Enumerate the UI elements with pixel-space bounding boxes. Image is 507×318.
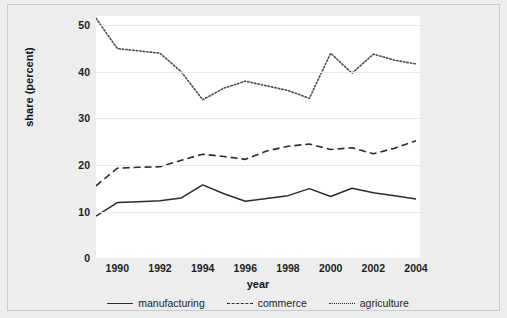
x-tick-1990: 1990 [106, 262, 129, 274]
gridline-y-50 [96, 25, 420, 26]
legend-item-agriculture[interactable]: agriculture [329, 297, 409, 309]
y-tick-40: 40 [78, 66, 90, 78]
gridline-y-30 [96, 118, 420, 119]
x-axis-title: year [96, 278, 420, 290]
gridline-y-10 [96, 212, 420, 213]
legend-label-commerce: commerce [258, 297, 307, 309]
y-tick-10: 10 [78, 206, 90, 218]
x-tick-1992: 1992 [148, 262, 171, 274]
gridline-y-40 [96, 72, 420, 73]
y-tick-0: 0 [84, 252, 90, 264]
y-axis-tick-labels: 01020304050 [62, 16, 90, 258]
y-tick-30: 30 [78, 112, 90, 124]
y-axis-title: share (percent) [23, 22, 35, 152]
y-tick-20: 20 [78, 159, 90, 171]
legend-swatch-dashed-icon [227, 299, 253, 308]
x-tick-1994: 1994 [191, 262, 214, 274]
x-tick-2000: 2000 [319, 262, 342, 274]
legend-item-commerce[interactable]: commerce [227, 297, 307, 309]
x-tick-2004: 2004 [404, 262, 427, 274]
x-tick-1996: 1996 [234, 262, 257, 274]
x-axis-tick-labels: 19901992199419961998200020022004 [96, 262, 420, 278]
y-tick-50: 50 [78, 19, 90, 31]
gridline-y-20 [96, 165, 420, 166]
legend-item-manufacturing[interactable]: manufacturing [107, 297, 205, 309]
chart-figure: share (percent) 01020304050 199019921994… [0, 0, 507, 318]
legend-swatch-solid-icon [107, 299, 133, 308]
x-tick-2002: 2002 [362, 262, 385, 274]
legend-label-manufacturing: manufacturing [138, 297, 205, 309]
legend-label-agriculture: agriculture [360, 297, 409, 309]
x-tick-1998: 1998 [276, 262, 299, 274]
legend-swatch-dotted-icon [329, 299, 355, 308]
plot-area [96, 16, 420, 258]
chart-legend: manufacturingcommerceagriculture [96, 294, 420, 312]
gridlines-layer [96, 16, 420, 258]
